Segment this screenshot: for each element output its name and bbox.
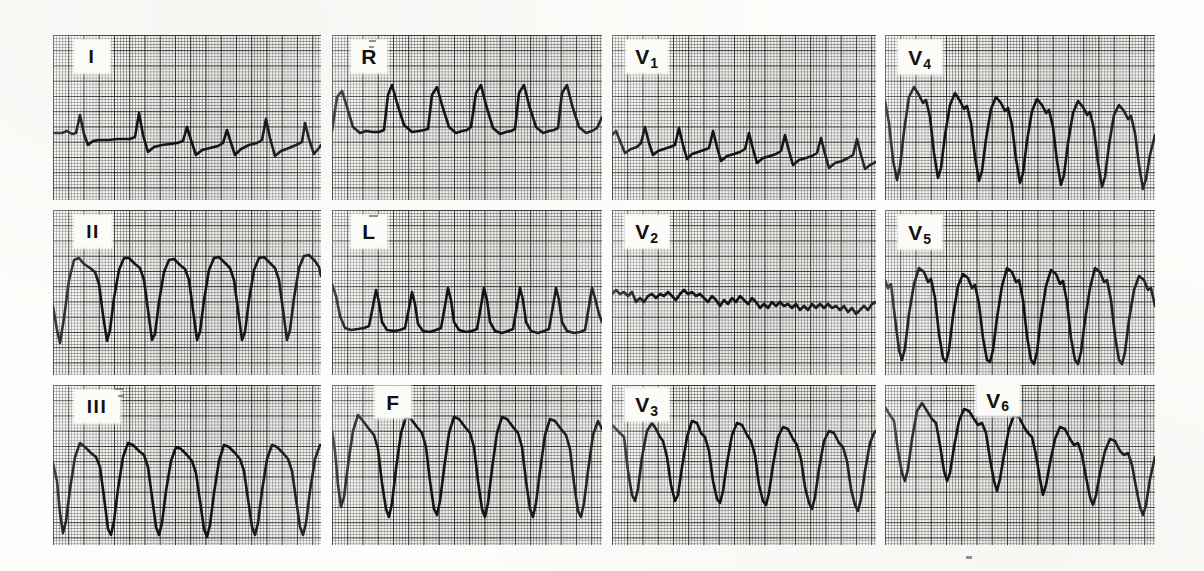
scan-artifact-5 [966, 556, 972, 559]
ecg-trace-path [53, 255, 321, 343]
ecg-trace-path [885, 87, 1155, 189]
lead-name-text: III [87, 397, 107, 416]
ecg-trace-path [612, 421, 876, 511]
ecg-waveform-lead-avf [332, 385, 602, 545]
lead-label-lead-v2: V2 [626, 216, 668, 247]
ecg-trace-path [53, 443, 321, 537]
ecg-trace-path [612, 127, 876, 169]
ecg-trace-path [885, 268, 1155, 364]
lead-name-text: F [386, 392, 399, 413]
lead-label-lead-v1: V1 [627, 41, 667, 72]
lead-subscript-text: 3 [650, 404, 658, 420]
lead-label-lead-avf: F [376, 387, 410, 417]
scan-artifact-4 [118, 395, 124, 397]
lead-name-text: V [986, 390, 1001, 411]
ecg-trace-path [885, 403, 1155, 515]
ecg-panel-lead-v4: V4 [885, 35, 1155, 200]
ecg-trace-path [332, 284, 602, 333]
ecg-trace-path [612, 290, 876, 314]
lead-subscript-text: 5 [923, 232, 931, 248]
scan-artifact-0 [369, 40, 376, 42]
lead-label-lead-v3: V3 [626, 389, 668, 420]
ecg-trace-path [332, 85, 602, 134]
lead-label-lead-avl: L [352, 216, 386, 247]
ecg-panel-lead-i: I [53, 35, 321, 200]
scan-artifact-2 [369, 215, 378, 217]
lead-label-lead-iii: III [75, 391, 119, 422]
ecg-waveform-lead-v6 [885, 385, 1155, 545]
lead-label-lead-i: I [75, 41, 109, 72]
ecg-panel-lead-avr: R [332, 35, 602, 200]
scan-artifact-1 [369, 46, 374, 48]
lead-name-text: V [635, 221, 650, 242]
lead-name-text: L [362, 221, 375, 242]
ecg-panel-lead-v5: V5 [885, 210, 1155, 375]
lead-name-text: V [635, 394, 650, 415]
ecg-panel-lead-v3: V3 [612, 385, 876, 545]
lead-name-text: I [89, 47, 96, 66]
lead-label-lead-v5: V5 [899, 216, 941, 248]
lead-name-text: V [908, 222, 923, 243]
ecg-panel-lead-avf: F [332, 385, 602, 545]
lead-name-text: V [635, 46, 650, 67]
lead-name-text: II [86, 222, 100, 241]
ecg-panel-lead-v1: V1 [612, 35, 876, 200]
ecg-panel-lead-avl: L [332, 210, 602, 375]
lead-name-text: R [361, 46, 377, 67]
ecg-panel-lead-ii: II [53, 210, 321, 375]
ecg-trace-path [332, 415, 602, 517]
ecg-sheet: IRV1V4IILV2V5IIIFV3V6 [0, 0, 1204, 571]
lead-label-lead-v6: V6 [977, 385, 1019, 415]
lead-subscript-text: 1 [650, 56, 658, 72]
lead-subscript-text: 6 [1001, 399, 1009, 415]
lead-label-lead-v4: V4 [899, 41, 941, 73]
ecg-panel-lead-v6: V6 [885, 385, 1155, 545]
ecg-panel-lead-v2: V2 [612, 210, 876, 375]
ecg-panel-lead-iii: III [53, 385, 321, 545]
scan-artifact-3 [115, 388, 123, 390]
lead-subscript-text: 2 [650, 231, 658, 247]
lead-name-text: V [908, 47, 923, 68]
lead-subscript-text: 4 [923, 57, 931, 73]
ecg-trace-path [53, 113, 321, 156]
lead-label-lead-ii: II [75, 216, 111, 247]
